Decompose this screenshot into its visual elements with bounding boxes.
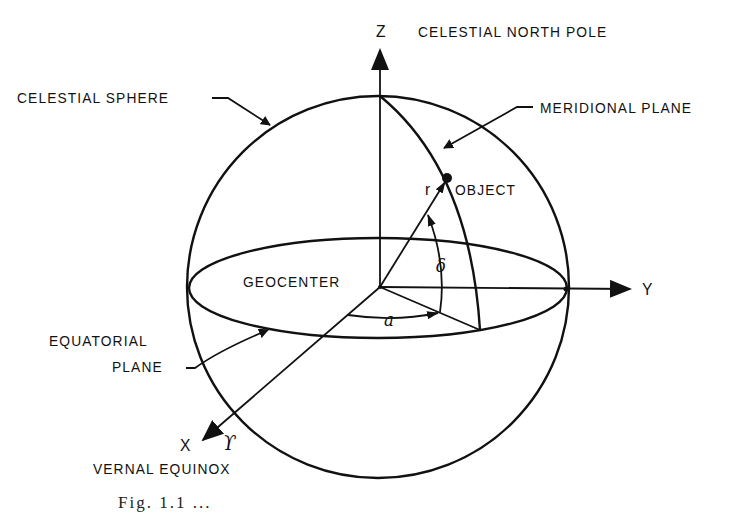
object-label: OBJECT [455,181,516,198]
y-axis-line [380,287,630,289]
object-point [442,173,452,183]
z-axis-label: Z [376,22,386,42]
meridian-arc [380,96,480,330]
x-axis-label: X [180,436,190,456]
projection-line [380,287,480,330]
geocenter-point [378,285,382,289]
figure-caption: Fig. 1.1 ... [118,493,211,513]
celestial-sphere-label: CELESTIAL SPHERE [17,89,169,106]
equatorial-label-line1: EQUATORIAL [49,332,148,349]
x-axis-line [203,287,380,440]
alpha-label: a [384,309,394,330]
r-label: r [425,180,430,200]
equatorial-label-line2: PLANE [112,358,163,375]
meridional-plane-label: MERIDIONAL PLANE [540,99,692,116]
y-intersection-point [564,287,569,292]
vernal-equinox-label: VERNAL EQUINOX [93,460,231,477]
aries-symbol-label: ϒ [223,431,236,455]
delta-label: δ [436,255,446,276]
celestial-north-pole-label: CELESTIAL NORTH POLE [418,23,607,40]
celestial-sphere-leader [212,98,270,125]
y-axis-label: Y [642,280,652,300]
geocenter-label: GEOCENTER [243,273,340,290]
